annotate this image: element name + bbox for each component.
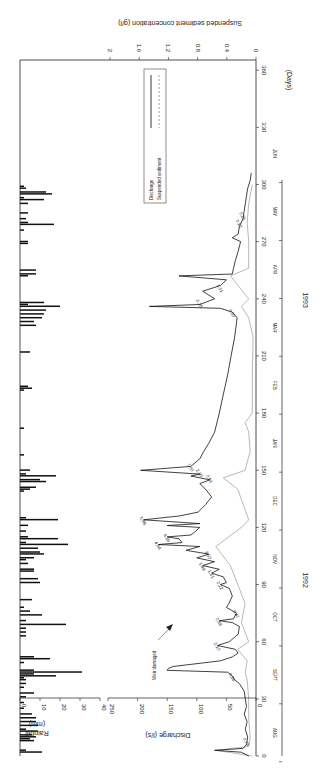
rainfall-bar (20, 536, 28, 538)
discharge-tick-label: 250 (109, 704, 115, 715)
peak-annotation: 0.88 (214, 617, 223, 628)
rainfall-bar (20, 542, 26, 544)
day-tick-label: 150 (261, 465, 267, 476)
month-label: JUN (272, 149, 277, 158)
rainfall-bar (20, 570, 34, 572)
rainfall-bar (20, 525, 28, 527)
sediment-tick-label: 2 (107, 49, 113, 53)
day-tick-label: 0 (261, 754, 267, 758)
month-label: FEB (272, 381, 277, 390)
day-tick-label: 330 (261, 122, 267, 133)
rainfall-bar (20, 631, 26, 633)
rainfall-bar (20, 610, 30, 612)
rainfall-bar (20, 321, 34, 323)
rainfall-bar (20, 671, 82, 673)
sediment-tick-label: 0.8 (195, 44, 201, 53)
rainfall-bar (20, 203, 28, 205)
rainfall-bar (20, 551, 40, 553)
rainfall-bar (20, 568, 34, 570)
month-label: MAR (272, 322, 277, 333)
rainfall-bar (20, 696, 26, 698)
discharge-tick-label: 50 (227, 704, 233, 711)
rainfall-bar (20, 538, 58, 540)
rainfall-bar (20, 473, 26, 475)
year-label-1992: 1992 (302, 572, 309, 588)
rainfall-bar (20, 325, 36, 327)
rainfall-bar (20, 751, 42, 753)
rainfall-bar (20, 302, 44, 304)
month-label: NOV (272, 554, 277, 564)
rainfall-bar (20, 673, 34, 675)
month-label: OCT (272, 612, 277, 622)
rainfall-bar (20, 677, 24, 679)
rainfall-bar (20, 544, 68, 546)
rainfall-bar (20, 313, 44, 315)
peak-annotation: 0.88 (227, 672, 236, 683)
peak-annotation: 0.47 (232, 609, 241, 620)
rainfall-bar (20, 475, 56, 477)
rainfall-bar (20, 656, 34, 658)
year-label-1993: 1993 (302, 292, 309, 308)
day-tick-label: 90 (261, 581, 267, 588)
rainfall-bar (20, 578, 38, 580)
rainfall-axis-unit: (mm) (29, 720, 45, 728)
discharge-tick-label: 150 (168, 704, 174, 715)
rainfall-tick-label: 40 (101, 704, 107, 711)
peak-annotation: 1.31 (207, 569, 216, 580)
rainfall-bar (20, 386, 28, 388)
rainfall-bar (20, 679, 26, 681)
rainfall-bar (20, 740, 34, 742)
rainfall-bars (20, 186, 82, 753)
discharge-series (141, 173, 252, 756)
rainfall-axis-title: Rainfall (25, 730, 49, 737)
rainfall-bar (20, 488, 30, 490)
rainfall-bar (20, 728, 26, 730)
peak-annotation: 1.49 (198, 562, 207, 573)
rainfall-bar (20, 351, 30, 353)
rainfall-bar (20, 687, 24, 689)
discharge-axis-title: Discharge (l/s) (145, 731, 190, 739)
rainfall-bar (20, 557, 34, 559)
rainfall-bar (20, 707, 24, 709)
month-label: SEPT (272, 669, 277, 681)
rainfall-bar (20, 199, 44, 201)
rainfall-bar (20, 620, 26, 622)
rainfall-bar (20, 669, 34, 671)
month-label: MAY (272, 207, 277, 216)
rainfall-bar (20, 479, 40, 481)
rainfall-bar (20, 427, 24, 429)
day-tick-label: 300 (261, 179, 267, 190)
sediment-tick-label: 1.6 (136, 44, 142, 53)
rainfall-tick-label: 20 (61, 704, 67, 711)
month-label: APR (272, 265, 277, 275)
sediment-axis-title: Suspended sediment concentration (g/l) (118, 19, 242, 27)
sediment-series (216, 185, 253, 757)
day-tick-label: 210 (261, 351, 267, 362)
rainfall-bar (20, 212, 28, 214)
rainfall-bar (20, 275, 28, 277)
discharge-tick-label: 100 (198, 704, 204, 715)
rainfall-bar (20, 317, 42, 319)
peak-annotation: 0.78 (242, 737, 251, 748)
rainfall-bar (20, 243, 28, 245)
rainfall-tick-label: 30 (81, 704, 87, 711)
day-tick-label: 240 (261, 294, 267, 305)
rotated-hydrograph-chart: 0.780.882.100.880.472.221.311.493.504.88… (0, 0, 327, 769)
rainfall-bar (20, 599, 32, 601)
peak-annotation: 8.39 (162, 533, 171, 544)
rainfall-bar (20, 627, 26, 629)
peak-annotation: 1.31 (216, 283, 225, 294)
peak-annotation: 5.96 (139, 516, 148, 527)
month-label: JAN (272, 439, 277, 448)
legend-discharge-label: Discharge (149, 179, 154, 200)
rainfall-bar (20, 241, 28, 243)
rainfall-bar (20, 658, 50, 660)
rainfall-bar (20, 486, 36, 488)
rainfall-bar (20, 713, 32, 715)
sediment-line (216, 185, 253, 757)
day-tick-label: 30 (261, 696, 267, 703)
month-label: DEC (272, 496, 277, 506)
day-tick-label: 270 (261, 237, 267, 248)
rainfall-bar (20, 530, 26, 532)
day-tick-label: 120 (261, 522, 267, 533)
